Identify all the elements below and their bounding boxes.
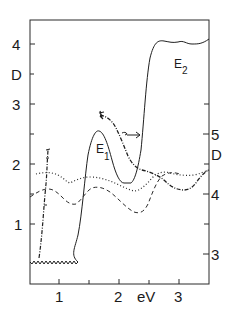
right-axis-arrow-icon bbox=[122, 132, 140, 138]
bottom-axis-ticks bbox=[59, 279, 179, 284]
left-axis-title: D bbox=[11, 66, 22, 83]
left-tick-3: 3 bbox=[12, 96, 20, 113]
right-axis-ticks bbox=[203, 104, 209, 254]
dash-dot-start-mark bbox=[99, 111, 104, 119]
bottom-tick-2: 2 bbox=[114, 288, 122, 305]
e2-label: E bbox=[174, 57, 182, 71]
e1-subscript: 1 bbox=[104, 151, 110, 162]
bottom-tick-3: 3 bbox=[174, 288, 182, 305]
right-tick-5: 5 bbox=[211, 126, 219, 143]
left-tick-1: 1 bbox=[14, 216, 22, 233]
e2-subscript: 2 bbox=[182, 65, 188, 76]
dash-dot-curve-left bbox=[39, 150, 48, 258]
left-tick-2: 2 bbox=[12, 156, 20, 173]
e1-label: E bbox=[96, 142, 104, 156]
right-tick-3: 3 bbox=[211, 246, 219, 263]
dashed-curve bbox=[30, 173, 180, 213]
right-tick-4: 4 bbox=[211, 186, 219, 203]
bottom-tick-1: 1 bbox=[55, 288, 63, 305]
spectrum-chart: 4 D 3 2 1 5 D 4 3 1 2 eV 3 bbox=[0, 0, 232, 311]
chart-svg: 4 D 3 2 1 5 D 4 3 1 2 eV 3 bbox=[0, 0, 232, 311]
dash-dot-curve-main bbox=[100, 115, 209, 190]
bottom-axis-title: eV bbox=[137, 288, 155, 305]
right-axis-title: D bbox=[211, 146, 222, 163]
dotted-curve bbox=[36, 170, 209, 191]
plot-frame bbox=[30, 20, 209, 284]
left-tick-4: 4 bbox=[12, 36, 20, 53]
